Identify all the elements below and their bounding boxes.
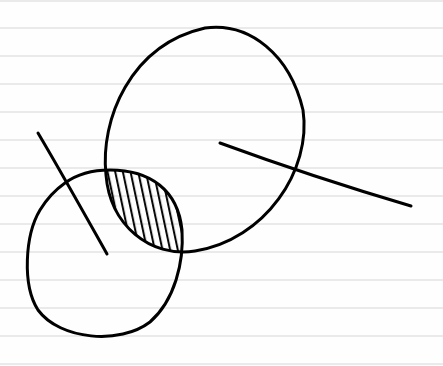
lined-paper (0, 0, 443, 366)
sketch-canvas (0, 0, 443, 366)
small-radius-line (38, 133, 107, 254)
